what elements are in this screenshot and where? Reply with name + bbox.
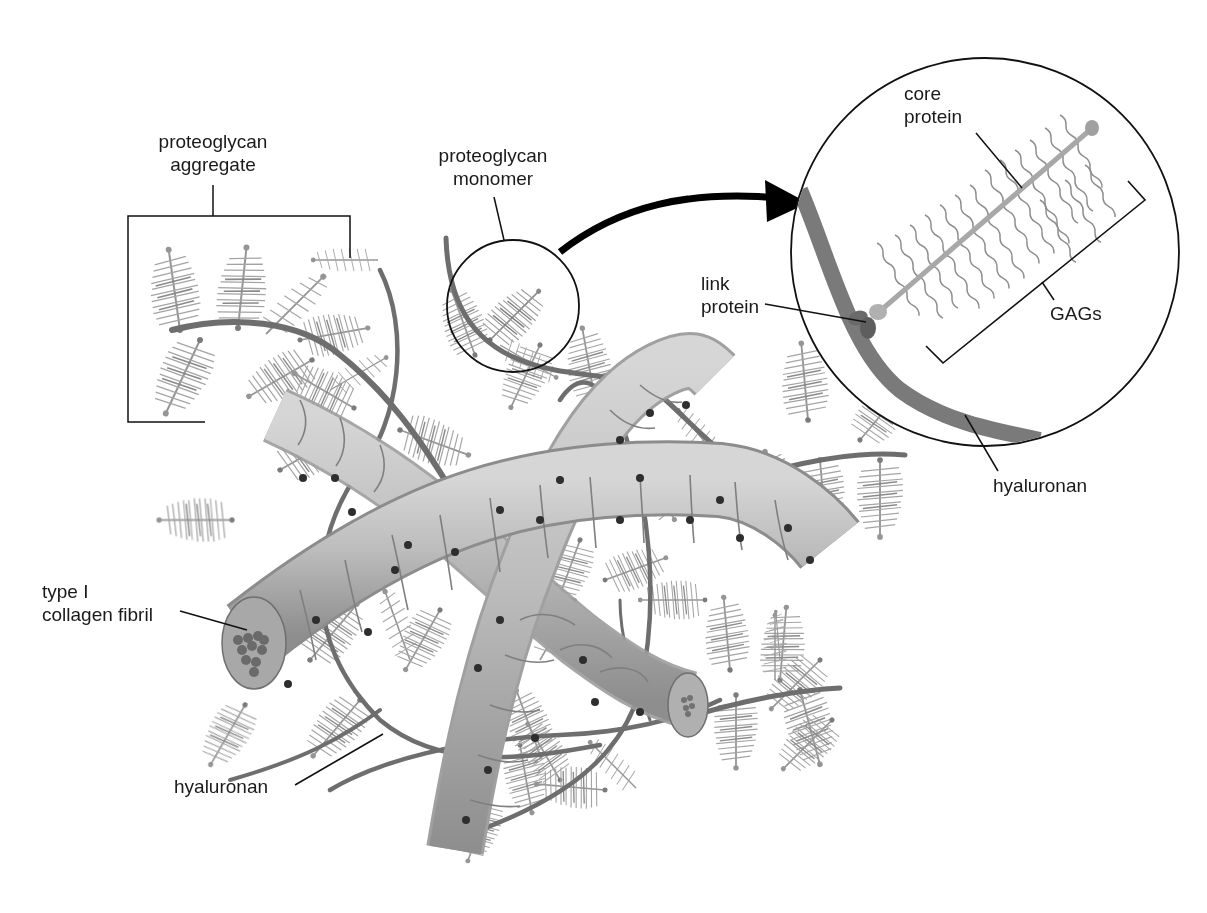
label-line: collagen fibril: [42, 603, 153, 626]
zoom-arrow: [560, 180, 808, 252]
label-text: GAGs: [1050, 303, 1102, 324]
label-gags: GAGs: [1050, 302, 1102, 325]
label-hyaluronan-inset: hyaluronan: [993, 474, 1087, 497]
label-line: protein: [701, 295, 759, 318]
inset-magnification: [765, 58, 1179, 471]
monomer-highlight: [447, 197, 579, 372]
label-core-protein: core protein: [904, 82, 962, 128]
label-link-protein: link protein: [701, 272, 759, 318]
collagen-fibril-end-right: [668, 673, 708, 737]
label-line: aggregate: [147, 153, 279, 176]
label-collagen-fibril: type I collagen fibril: [42, 580, 153, 626]
label-line: proteoglycan: [147, 130, 279, 153]
label-text: hyaluronan: [993, 475, 1087, 496]
label-line: monomer: [422, 167, 564, 190]
label-line: core: [904, 82, 962, 105]
label-hyaluronan-main: hyaluronan: [174, 775, 268, 798]
label-line: proteoglycan: [422, 144, 564, 167]
label-proteoglycan-monomer: proteoglycan monomer: [422, 144, 564, 190]
label-line: type I: [42, 580, 153, 603]
label-text: hyaluronan: [174, 776, 268, 797]
label-proteoglycan-aggregate: proteoglycan aggregate: [147, 130, 279, 176]
label-line: link: [701, 272, 759, 295]
collagen-fibril-cross-section: [222, 597, 286, 689]
label-line: protein: [904, 105, 962, 128]
